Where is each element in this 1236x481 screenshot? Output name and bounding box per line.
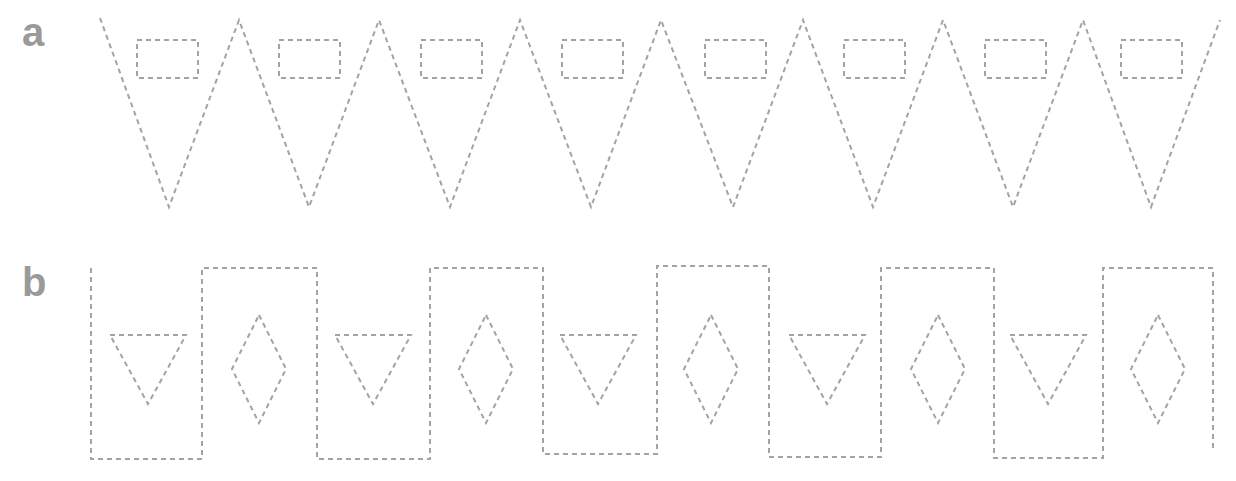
- diamond: [1131, 315, 1185, 423]
- downward-triangle: [789, 335, 865, 404]
- downward-triangle: [335, 335, 411, 404]
- dashed-rectangle: [137, 40, 198, 78]
- dashed-rectangle: [985, 40, 1046, 78]
- panel-a-zigzag-triangles: [100, 18, 1220, 207]
- diamond: [459, 315, 513, 423]
- downward-triangle: [110, 335, 186, 404]
- dashed-rectangle: [705, 40, 766, 78]
- downward-triangle: [560, 335, 636, 404]
- panel-b-square-wave-shapes: [91, 266, 1213, 459]
- diamond: [911, 315, 965, 423]
- zigzag-line: [100, 18, 1220, 207]
- diagram-canvas: [0, 0, 1236, 481]
- dashed-rectangle: [421, 40, 482, 78]
- diamond: [232, 315, 286, 423]
- diamond: [684, 315, 738, 423]
- downward-triangle: [1010, 335, 1086, 404]
- dashed-rectangle: [844, 40, 905, 78]
- dashed-rectangle: [1121, 40, 1182, 78]
- dashed-rectangle: [279, 40, 340, 78]
- dashed-rectangle: [562, 40, 623, 78]
- square-wave-line: [91, 266, 1213, 459]
